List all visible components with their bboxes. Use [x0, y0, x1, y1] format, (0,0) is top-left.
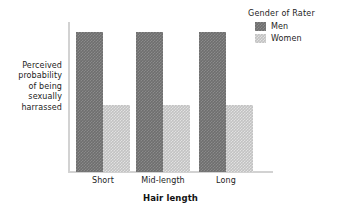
legend-item-women: Women [255, 34, 338, 43]
legend-title: Gender of Rater [248, 9, 338, 18]
legend-label-women: Women [271, 34, 302, 43]
x-tick-label-long: Long [179, 176, 273, 185]
y-axis-label-line-4: sexually [2, 92, 62, 102]
y-axis-line [68, 22, 70, 173]
bar-chart-figure: Perceived probability of being sexually … [0, 0, 338, 215]
bar-mid-length-women [163, 105, 190, 172]
y-axis-label: Perceived probability of being sexually … [2, 61, 62, 113]
y-axis-label-line-1: Perceived [2, 61, 62, 71]
plot-area: Short Mid-length Long [68, 22, 273, 174]
x-axis-label: Hair length [68, 193, 273, 203]
y-axis-label-line-3: of being [2, 82, 62, 92]
legend-swatch-men-icon [255, 22, 266, 31]
legend-swatch-women-icon [255, 34, 266, 43]
legend-label-men: Men [271, 22, 288, 31]
legend: Gender of Rater Men Women [248, 9, 338, 43]
bar-short-women [103, 105, 130, 172]
bar-long-women [226, 105, 253, 172]
bar-group-mid-length [136, 25, 190, 172]
y-axis-label-line-2: probability [2, 71, 62, 81]
bar-mid-length-men [136, 32, 163, 172]
legend-item-men: Men [255, 22, 338, 31]
bar-group-long [199, 25, 253, 172]
y-axis-label-line-5: harrassed [2, 103, 62, 113]
bar-group-short [76, 25, 130, 172]
bar-long-men [199, 32, 226, 172]
bar-short-men [76, 32, 103, 172]
